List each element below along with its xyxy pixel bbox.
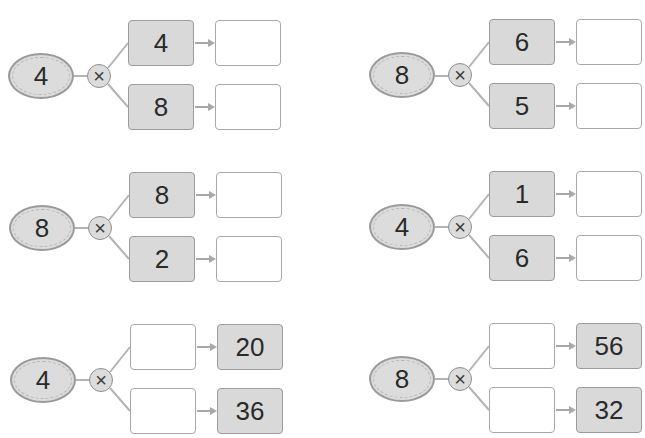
multiplier-value: 8 <box>395 60 409 91</box>
multiplier-oval: 8 <box>369 356 435 402</box>
answer-box-bottom[interactable] <box>216 236 282 282</box>
answer-box-top[interactable] <box>576 171 642 217</box>
answer-box-bottom[interactable] <box>489 387 555 433</box>
product-box-bottom: 36 <box>217 388 283 434</box>
multiplier-value: 4 <box>395 212 409 243</box>
answer-box-top[interactable] <box>130 324 196 370</box>
multiplier-oval: 4 <box>369 204 435 250</box>
input-box-top: 4 <box>128 20 194 66</box>
multiplier-oval: 8 <box>9 205 75 251</box>
multiplier-oval: 4 <box>10 357 76 403</box>
answer-box-top[interactable] <box>489 323 555 369</box>
problem-1: 4 × 4 8 <box>8 20 298 145</box>
multiply-icon: × <box>448 63 472 87</box>
multiply-icon: × <box>89 368 113 392</box>
input-box-top: 1 <box>489 171 555 217</box>
multiplier-value: 4 <box>36 365 50 396</box>
answer-box-bottom[interactable] <box>130 388 196 434</box>
answer-box-bottom[interactable] <box>215 84 281 130</box>
problem-3: 8 × 8 2 <box>9 172 299 297</box>
input-box-bottom: 6 <box>489 235 555 281</box>
answer-box-bottom[interactable] <box>576 235 642 281</box>
multiplier-value: 4 <box>34 61 48 92</box>
input-box-top: 8 <box>129 172 195 218</box>
multiplier-value: 8 <box>35 213 49 244</box>
product-box-bottom: 32 <box>576 387 642 433</box>
multiplier-oval: 4 <box>8 53 74 99</box>
multiply-icon: × <box>88 216 112 240</box>
problem-5: 4 × 20 36 <box>10 324 300 438</box>
input-box-top: 6 <box>489 19 555 65</box>
answer-box-top[interactable] <box>215 20 281 66</box>
multiply-icon: × <box>448 367 472 391</box>
product-box-top: 20 <box>217 324 283 370</box>
input-box-bottom: 5 <box>489 83 555 129</box>
multiplier-oval: 8 <box>369 52 435 98</box>
multiplier-value: 8 <box>395 364 409 395</box>
problem-6: 8 × 56 32 <box>369 323 645 438</box>
answer-box-bottom[interactable] <box>576 83 642 129</box>
input-box-bottom: 2 <box>129 236 195 282</box>
problem-4: 4 × 1 6 <box>369 171 645 296</box>
product-box-top: 56 <box>576 323 642 369</box>
multiply-icon: × <box>87 64 111 88</box>
multiply-icon: × <box>448 215 472 239</box>
problem-2: 8 × 6 5 <box>369 19 645 144</box>
answer-box-top[interactable] <box>576 19 642 65</box>
input-box-bottom: 8 <box>128 84 194 130</box>
answer-box-top[interactable] <box>216 172 282 218</box>
